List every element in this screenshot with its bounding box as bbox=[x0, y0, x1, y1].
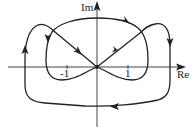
arrow-top-right bbox=[121, 16, 130, 24]
arrow-down-inner-left bbox=[45, 34, 52, 43]
tick-label-1: 1 bbox=[125, 68, 131, 79]
nyquist-diagram bbox=[0, 0, 194, 131]
imag-axis bbox=[94, 1, 101, 127]
imag-axis-label: Im bbox=[81, 2, 93, 13]
tick-label-neg1: -1 bbox=[60, 68, 69, 79]
real-axis-label: Re bbox=[177, 69, 189, 80]
arrow-bottom-left bbox=[110, 103, 119, 110]
